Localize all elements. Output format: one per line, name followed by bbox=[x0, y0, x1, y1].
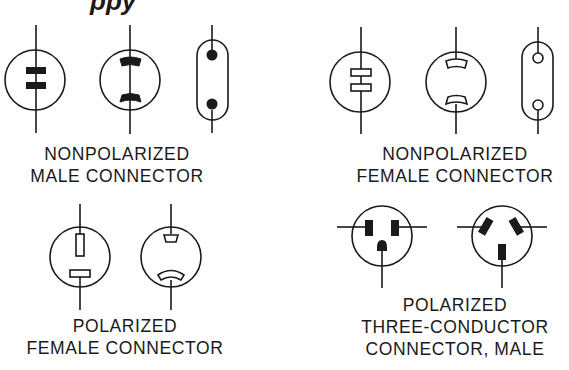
nonpolarized-female-capsule-two-socket-symbol bbox=[522, 27, 553, 134]
label-line: POLARIZED bbox=[27, 315, 224, 337]
label-line: POLARIZED bbox=[361, 294, 549, 316]
label-line: THREE-CONDUCTOR bbox=[361, 316, 549, 338]
polarized-female-round-slot-symbol bbox=[50, 204, 110, 310]
nonpolarized-male-label: NONPOLARIZED MALE CONNECTOR bbox=[30, 143, 203, 187]
polarized-three-conductor-angled-blade-symbol bbox=[457, 206, 547, 288]
label-line: NONPOLARIZED bbox=[357, 143, 554, 165]
nonpolarized-female-round-two-slot-symbol bbox=[330, 27, 390, 134]
label-line: FEMALE CONNECTOR bbox=[357, 165, 554, 187]
label-line: CONNECTOR, MALE bbox=[361, 338, 549, 360]
nonpolarized-male-round-curved-blade-symbol bbox=[100, 25, 160, 134]
label-line: MALE CONNECTOR bbox=[30, 165, 203, 187]
nonpolarized-female-round-curved-slot-symbol bbox=[426, 27, 486, 134]
nonpolarized-male-round-two-blade-symbol bbox=[5, 25, 65, 133]
polarized-three-conductor-parallel-blade-symbol bbox=[337, 206, 427, 288]
polarized-three-conductor-label: POLARIZED THREE-CONDUCTOR CONNECTOR, MAL… bbox=[361, 294, 549, 360]
nonpolarized-female-label: NONPOLARIZED FEMALE CONNECTOR bbox=[357, 143, 554, 187]
polarized-female-label: POLARIZED FEMALE CONNECTOR bbox=[27, 315, 224, 359]
label-line: FEMALE CONNECTOR bbox=[27, 337, 224, 359]
label-line: NONPOLARIZED bbox=[30, 143, 203, 165]
polarized-female-round-curved-slot-symbol bbox=[141, 204, 201, 310]
nonpolarized-male-capsule-two-pin-symbol bbox=[197, 25, 228, 133]
